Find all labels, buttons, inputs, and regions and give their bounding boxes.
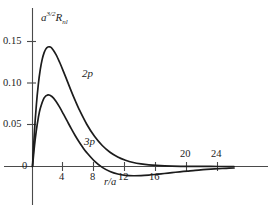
curve-label-3p: 3p	[84, 136, 95, 147]
y-tick-marks	[27, 42, 36, 125]
y-tick-label-015: 0.15	[3, 36, 21, 47]
radial-wavefunction-figure: 0.15 0.10 0.05 0 4 8 12 16 20 24 r/a a3/…	[0, 0, 271, 205]
plot-area	[0, 0, 271, 205]
x-tick-label-12: 12	[118, 172, 129, 183]
x-tick-label-20: 20	[180, 149, 191, 160]
y-axis-title: a3/2Rnl	[41, 12, 68, 23]
y-axis-title-subscript: nl	[62, 18, 67, 26]
x-axis-title: r/a	[104, 177, 116, 188]
y-tick-label-010: 0.10	[3, 78, 21, 89]
x-tick-label-8: 8	[90, 172, 95, 183]
curve-label-2p: 2p	[82, 68, 93, 79]
x-tick-label-16: 16	[149, 172, 160, 183]
x-tick-label-24: 24	[211, 149, 222, 160]
curve-2p	[33, 47, 235, 167]
y-tick-label-0: 0	[22, 161, 27, 172]
y-tick-label-005: 0.05	[3, 119, 21, 130]
x-tick-label-4: 4	[59, 172, 64, 183]
